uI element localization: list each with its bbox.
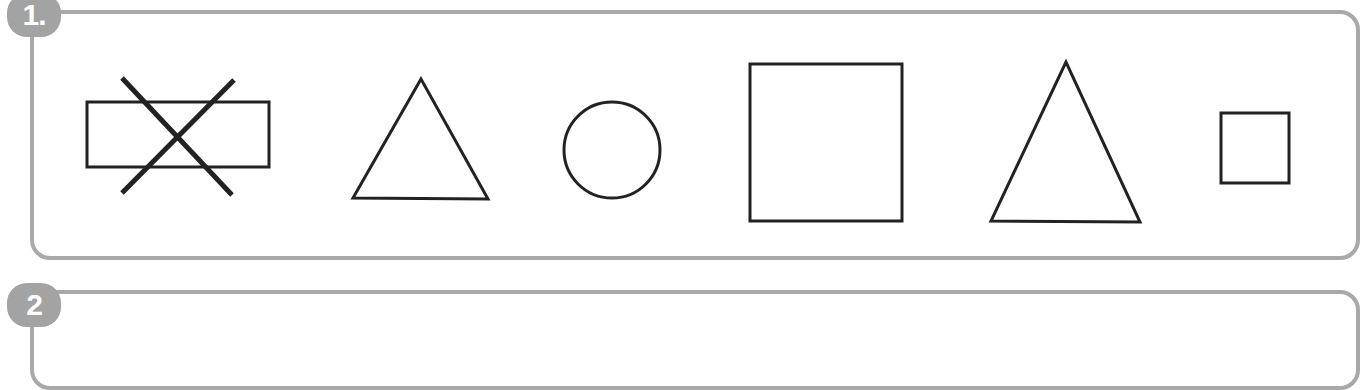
crossed-out-rectangle-shape[interactable] (87, 78, 269, 195)
triangle-shape-large[interactable] (991, 62, 1140, 222)
circle-shape[interactable] (564, 102, 660, 198)
large-square-shape[interactable] (750, 64, 902, 221)
small-square-shape[interactable] (1221, 113, 1289, 183)
triangle-shape[interactable] (353, 79, 488, 199)
